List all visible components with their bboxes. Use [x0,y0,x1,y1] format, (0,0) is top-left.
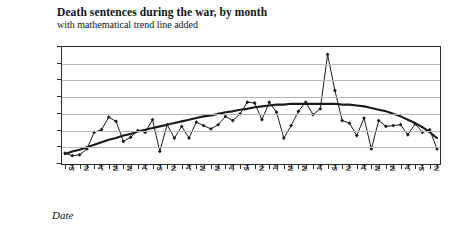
x-tick-mark [233,165,234,169]
x-tick-mark [138,165,139,169]
x-tick-mark [357,165,358,169]
gridline [62,114,440,115]
x-tick-mark [123,165,124,169]
x-tick-mark [160,165,161,169]
x-tick-mark [415,165,416,169]
x-tick-mark [430,165,431,169]
x-tick-mark [393,165,394,169]
x-tick-mark [313,165,314,169]
x-tick-mark [101,165,102,169]
x-tick-mark [306,165,307,169]
x-tick-mark [225,165,226,169]
x-tick-mark [65,165,66,169]
x-tick-mark [116,165,117,169]
x-tick-mark [364,165,365,169]
x-tick-mark [182,165,183,169]
x-tick-mark [379,165,380,169]
x-tick-mark [247,165,248,169]
x-tick-mark [386,165,387,169]
data-point-marker [362,116,366,120]
data-point-marker [194,120,198,124]
data-point-marker [260,118,264,122]
x-tick-mark [298,165,299,169]
gridline [62,147,440,148]
x-tick-mark [189,165,190,169]
data-point-marker [70,154,74,158]
data-point-marker [158,150,162,154]
x-tick-mark [80,165,81,169]
x-tick-mark [262,165,263,169]
x-tick-mark [94,165,95,169]
chart-figure: Death sentences during the war, by month… [0,0,461,233]
gridline [62,97,440,98]
x-tick-mark [167,165,168,169]
data-point-marker [253,101,257,105]
x-tick-mark [153,165,154,169]
x-tick-mark [269,165,270,169]
x-tick-mark [87,165,88,169]
chart-title: Death sentences during the war, by month [57,6,267,18]
x-tick-mark [218,165,219,169]
data-line-path [65,55,437,156]
data-point-marker [202,124,206,128]
x-tick-mark [371,165,372,169]
x-tick-mark [349,165,350,169]
data-point-marker [340,119,344,123]
x-tick-mark [284,165,285,169]
x-tick-mark [401,165,402,169]
x-tick-mark [240,165,241,169]
x-tick-mark [131,165,132,169]
x-tick-mark [174,165,175,169]
x-tick-mark [320,165,321,169]
x-tick-mark [342,165,343,169]
data-point-marker [326,53,330,57]
data-point-marker [391,124,395,128]
title-block: Death sentences during the war, by month… [57,6,267,30]
plot-area [61,46,441,165]
gridline [62,64,440,65]
x-tick-mark [204,165,205,169]
x-tick-mark [277,165,278,169]
x-axis-title: Date [52,209,73,221]
x-tick-mark [72,165,73,169]
x-tick-mark [255,165,256,169]
x-tick-mark [408,165,409,169]
chart-subtitle: with mathematical trend line added [57,19,267,30]
x-tick-mark [328,165,329,169]
x-tick-mark [145,165,146,169]
x-tick-mark [211,165,212,169]
data-markers [63,53,439,158]
x-tick-mark [335,165,336,169]
x-tick-mark [422,165,423,169]
gridline [62,131,440,132]
x-tick-mark [291,165,292,169]
data-point-marker [333,89,337,93]
x-tick-mark [196,165,197,169]
x-tick-mark [437,165,438,169]
x-tick-mark [109,165,110,169]
gridline [62,80,440,81]
